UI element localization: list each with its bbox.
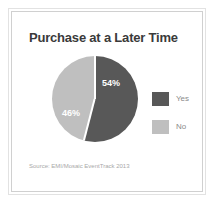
legend-label-no: No [176, 122, 186, 131]
pie-divider-start [94, 56, 96, 99]
chart-page: Purchase at a Later Time 54% 46% Yes No … [0, 0, 216, 205]
legend-label-yes: Yes [176, 94, 189, 103]
pie-slice-label-no: 46% [62, 108, 80, 118]
legend-swatch-yes [152, 92, 169, 106]
chart-title: Purchase at a Later Time [29, 30, 178, 45]
source-note: Source: EMI/Mosaic EventTrack 2013 [29, 163, 130, 169]
chart-legend: Yes No [152, 88, 189, 144]
legend-item-no[interactable]: No [152, 116, 189, 137]
pie-chart: 54% 46% [52, 56, 138, 142]
pie-slice-label-yes: 54% [102, 78, 120, 88]
legend-swatch-no [152, 120, 169, 134]
legend-item-yes[interactable]: Yes [152, 88, 189, 109]
